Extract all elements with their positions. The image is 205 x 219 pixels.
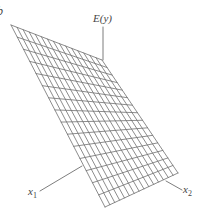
panel-mark: b xyxy=(0,4,3,18)
x2-label-subscript: 2 xyxy=(188,189,192,198)
regression-plane-figure: b E(y) x1 x2 xyxy=(0,0,205,219)
x1-label-subscript: 1 xyxy=(33,191,37,200)
y-axis-label: E(y) xyxy=(92,12,112,25)
